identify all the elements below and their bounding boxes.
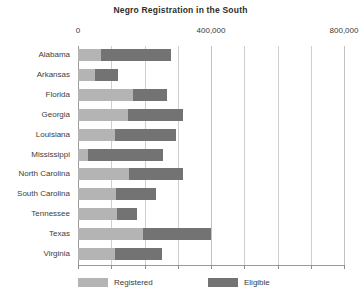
x-axis-tick xyxy=(178,265,179,269)
x-axis-tick-label: 0 xyxy=(76,26,80,35)
bar-segment-registered[interactable] xyxy=(78,228,143,240)
stacked-bar[interactable] xyxy=(78,49,171,61)
chart-row: Mississippi xyxy=(78,146,344,166)
legend-label-eligible: Eligible xyxy=(244,278,270,287)
stacked-bar[interactable] xyxy=(78,168,183,180)
bar-segment-registered[interactable] xyxy=(78,248,115,260)
bar-segment-registered[interactable] xyxy=(78,149,88,161)
y-axis-label-south-carolina: South Carolina xyxy=(17,188,70,200)
chart-row: Tennessee xyxy=(78,205,344,225)
plot-area: AlabamaArkansasFloridaGeorgiaLouisianaMi… xyxy=(78,46,344,265)
stacked-bar[interactable] xyxy=(78,129,176,141)
chart-row: Florida xyxy=(78,86,344,106)
bar-segment-registered[interactable] xyxy=(78,188,116,200)
legend-swatch-eligible xyxy=(208,278,238,287)
y-axis-label-texas: Texas xyxy=(49,228,70,240)
stacked-bar[interactable] xyxy=(78,109,183,121)
bar-segment-registered[interactable] xyxy=(78,129,115,141)
bar-segment-eligible[interactable] xyxy=(115,248,162,260)
bar-segment-registered[interactable] xyxy=(78,89,133,101)
bar-segment-registered[interactable] xyxy=(78,49,101,61)
x-axis-tick xyxy=(278,265,279,269)
chart-row: Alabama xyxy=(78,46,344,66)
y-axis-label-mississippi: Mississippi xyxy=(31,149,70,161)
chart-legend: Registered Eligible xyxy=(0,278,361,292)
y-axis-label-alabama: Alabama xyxy=(38,49,70,61)
chart-row: North Carolina xyxy=(78,165,344,185)
x-axis-tick xyxy=(244,265,245,269)
bar-segment-eligible[interactable] xyxy=(117,208,137,220)
bar-chart: Negro Registration in the South 0400,000… xyxy=(0,0,361,301)
x-axis-tick xyxy=(145,265,146,269)
x-axis-tick xyxy=(344,265,345,269)
y-axis-label-north-carolina: North Carolina xyxy=(18,168,70,180)
bar-segment-eligible[interactable] xyxy=(128,109,183,121)
bar-segment-registered[interactable] xyxy=(78,208,117,220)
stacked-bar[interactable] xyxy=(78,228,211,240)
legend-label-registered: Registered xyxy=(114,278,153,287)
bar-segment-eligible[interactable] xyxy=(133,89,168,101)
bar-segment-registered[interactable] xyxy=(78,109,128,121)
y-axis-label-louisiana: Louisiana xyxy=(36,129,70,141)
chart-row: Arkansas xyxy=(78,66,344,86)
x-axis-tick xyxy=(111,265,112,269)
y-axis-label-arkansas: Arkansas xyxy=(37,69,70,81)
y-axis-label-tennessee: Tennessee xyxy=(31,208,70,220)
legend-item-eligible: Eligible xyxy=(208,278,270,287)
y-axis-label-virginia: Virginia xyxy=(43,248,70,260)
gridline xyxy=(344,46,345,265)
bar-segment-registered[interactable] xyxy=(78,69,95,81)
stacked-bar[interactable] xyxy=(78,188,156,200)
chart-row: Louisiana xyxy=(78,126,344,146)
y-axis-label-georgia: Georgia xyxy=(42,109,70,121)
stacked-bar[interactable] xyxy=(78,208,137,220)
chart-row: Texas xyxy=(78,225,344,245)
bar-segment-eligible[interactable] xyxy=(115,129,177,141)
bar-segment-eligible[interactable] xyxy=(101,49,171,61)
x-axis-tick xyxy=(211,265,212,269)
bar-segment-eligible[interactable] xyxy=(88,149,163,161)
stacked-bar[interactable] xyxy=(78,89,167,101)
bar-segment-eligible[interactable] xyxy=(116,188,156,200)
x-axis-tick xyxy=(78,265,79,269)
stacked-bar[interactable] xyxy=(78,149,163,161)
x-axis-tick xyxy=(311,265,312,269)
chart-row: South Carolina xyxy=(78,185,344,205)
x-axis-tick-label: 400,000 xyxy=(197,26,226,35)
bar-segment-eligible[interactable] xyxy=(129,168,183,180)
x-axis-tick-label: 800,000 xyxy=(330,26,359,35)
bar-segment-registered[interactable] xyxy=(78,168,129,180)
x-axis-tick-labels: 0400,000800,000 xyxy=(0,26,361,40)
bar-segment-eligible[interactable] xyxy=(143,228,211,240)
y-axis-label-florida: Florida xyxy=(46,89,70,101)
legend-swatch-registered xyxy=(78,278,108,287)
chart-row: Georgia xyxy=(78,106,344,126)
chart-title: Negro Registration in the South xyxy=(0,5,361,15)
legend-item-registered: Registered xyxy=(78,278,153,287)
stacked-bar[interactable] xyxy=(78,69,118,81)
bar-segment-eligible[interactable] xyxy=(95,69,118,81)
chart-row: Virginia xyxy=(78,245,344,265)
stacked-bar[interactable] xyxy=(78,248,162,260)
